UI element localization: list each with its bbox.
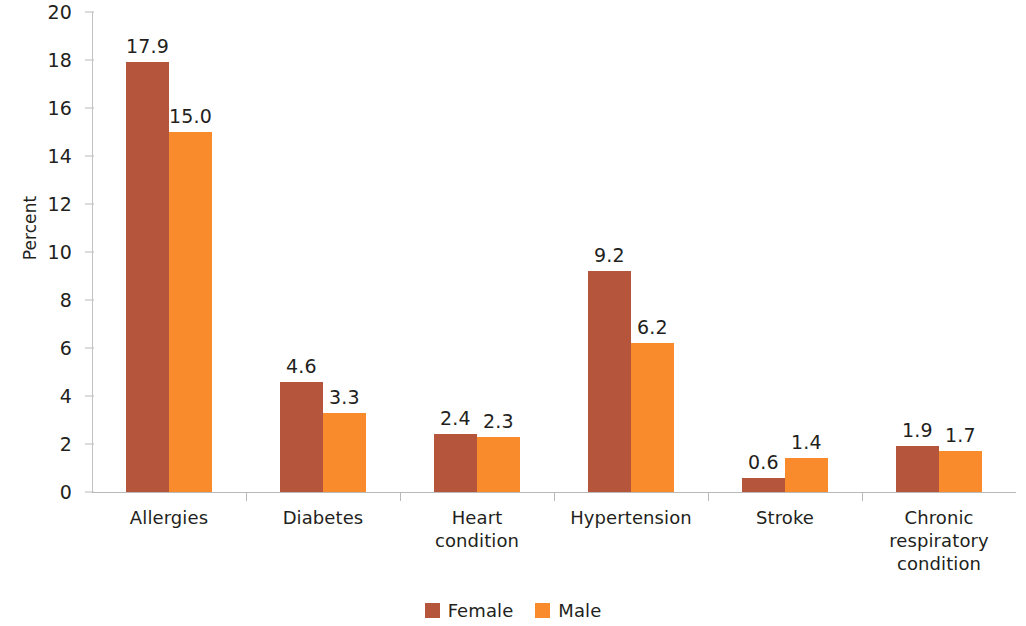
bar-value-label: 3.3 [329,386,360,408]
y-axis-ticks: 20181614121086420 [0,0,92,626]
legend-label: Female [448,600,514,621]
legend-swatch-icon [535,603,550,618]
x-axis-separator-tick [400,492,401,501]
bar-value-label: 17.9 [126,35,169,57]
bar [434,434,477,492]
legend-item[interactable]: Male [535,600,601,621]
bar-value-label: 2.4 [440,407,471,429]
bar-value-label: 4.6 [286,355,317,377]
x-axis-separator-tick [862,492,863,501]
bar [169,132,212,492]
x-axis-tick-label: Heart condition [435,506,519,552]
x-axis-tick-label: Stroke [756,506,814,529]
y-axis-tick-label: 0 [0,481,72,503]
y-axis-tick-label: 10 [0,241,72,263]
y-axis-tick-label: 14 [0,145,72,167]
y-axis-tick-label: 2 [0,433,72,455]
bar [896,446,939,492]
legend-label: Male [558,600,601,621]
x-axis-tick-label: Hypertension [570,506,692,529]
bar [785,458,828,492]
bar [588,271,631,492]
y-axis-tick-label: 8 [0,289,72,311]
bar-value-label: 0.6 [748,451,779,473]
legend-swatch-icon [425,603,440,618]
y-axis-tick-label: 20 [0,1,72,23]
bar [631,343,674,492]
bar [477,437,520,492]
bar [280,382,323,492]
x-axis-tick-label: Allergies [130,506,208,529]
plot-area: 17.915.04.63.32.42.39.26.20.61.41.91.7 [92,12,1016,492]
y-axis-tick-label: 16 [0,97,72,119]
bar-value-label: 2.3 [483,410,514,432]
grouped-bar-chart: Percent 20181614121086420 17.915.04.63.3… [0,0,1026,626]
x-axis-separator-tick [554,492,555,501]
x-axis-separator-tick [708,492,709,501]
bar-value-label: 15.0 [169,105,212,127]
x-axis-tick-label: Chronic respiratory condition [889,506,989,575]
chart-legend: FemaleMale [0,600,1026,621]
bar [742,478,785,492]
bar-value-label: 1.7 [945,424,976,446]
bar-value-label: 1.4 [791,431,822,453]
y-axis-tick-label: 18 [0,49,72,71]
bar-value-label: 6.2 [637,316,668,338]
x-axis-tick-label: Diabetes [283,506,364,529]
y-axis-tick-label: 6 [0,337,72,359]
y-axis-tick-label: 12 [0,193,72,215]
bar-value-label: 9.2 [594,244,625,266]
bar [939,451,982,492]
bar [126,62,169,492]
y-axis-tick-label: 4 [0,385,72,407]
bar [323,413,366,492]
x-axis-separator-tick [246,492,247,501]
bar-value-label: 1.9 [902,419,933,441]
legend-item[interactable]: Female [425,600,514,621]
